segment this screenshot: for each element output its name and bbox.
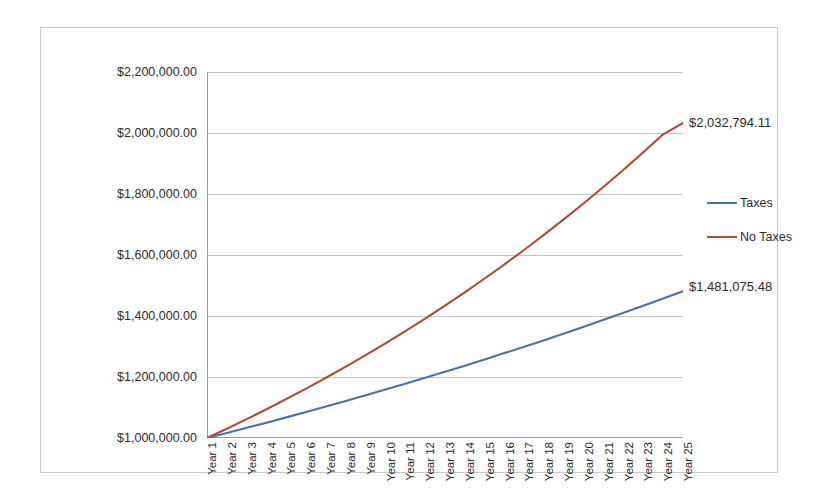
x-tick: Year 13 xyxy=(437,440,453,500)
legend-item-no-taxes[interactable]: No Taxes xyxy=(707,220,814,254)
plot-area xyxy=(207,72,683,438)
y-tick-label: $1,600,000.00 xyxy=(117,249,197,262)
x-tick: Year 25 xyxy=(675,440,691,500)
x-tick: Year 1 xyxy=(199,440,215,500)
x-tick-label: Year 10 xyxy=(386,442,398,481)
x-tick-label: Year 8 xyxy=(346,442,358,475)
x-tick-label: Year 6 xyxy=(306,442,318,475)
x-tick: Year 3 xyxy=(239,440,255,500)
x-tick-label: Year 25 xyxy=(683,442,695,481)
y-tick-label: $1,200,000.00 xyxy=(117,371,197,384)
x-tick: Year 24 xyxy=(655,440,671,500)
x-tick-label: Year 21 xyxy=(604,442,616,481)
y-axis-labels: $2,200,000.00$2,000,000.00$1,800,000.00$… xyxy=(41,28,197,474)
series-line-taxes xyxy=(207,291,683,438)
x-tick: Year 18 xyxy=(536,440,552,500)
x-tick: Year 21 xyxy=(596,440,612,500)
x-tick: Year 8 xyxy=(338,440,354,500)
data-label-taxes: $1,481,075.48 xyxy=(689,280,772,293)
x-tick: Year 19 xyxy=(556,440,572,500)
x-tick: Year 7 xyxy=(318,440,334,500)
x-tick-label: Year 9 xyxy=(366,442,378,475)
x-tick-label: Year 7 xyxy=(326,442,338,475)
x-tick: Year 4 xyxy=(259,440,275,500)
chart-legend[interactable]: TaxesNo Taxes xyxy=(707,186,814,254)
x-tick-label: Year 15 xyxy=(485,442,497,481)
x-tick-label: Year 17 xyxy=(524,442,536,481)
legend-swatch xyxy=(707,236,737,238)
legend-label: No Taxes xyxy=(740,231,792,244)
y-tick-label: $2,000,000.00 xyxy=(117,127,197,140)
x-tick: Year 23 xyxy=(635,440,651,500)
x-tick: Year 6 xyxy=(298,440,314,500)
x-tick: Year 11 xyxy=(397,440,413,500)
x-tick-label: Year 14 xyxy=(465,442,477,481)
x-tick: Year 5 xyxy=(278,440,294,500)
plot-svg xyxy=(207,72,683,438)
chart-screenshot: $2,200,000.00$2,000,000.00$1,800,000.00$… xyxy=(0,0,814,502)
chart-frame: $2,200,000.00$2,000,000.00$1,800,000.00$… xyxy=(40,27,778,473)
x-tick-label: Year 19 xyxy=(564,442,576,481)
legend-item-taxes[interactable]: Taxes xyxy=(707,186,814,220)
x-tick: Year 22 xyxy=(616,440,632,500)
x-tick: Year 15 xyxy=(477,440,493,500)
x-tick-label: Year 22 xyxy=(624,442,636,481)
y-tick-label: $1,000,000.00 xyxy=(117,432,197,445)
x-tick-label: Year 3 xyxy=(247,442,259,475)
legend-swatch xyxy=(707,202,737,204)
x-tick: Year 10 xyxy=(378,440,394,500)
data-label-no-taxes: $2,032,794.11 xyxy=(689,116,771,129)
x-axis-labels: Year 1Year 2Year 3Year 4Year 5Year 6Year… xyxy=(207,440,687,500)
x-tick: Year 2 xyxy=(219,440,235,500)
x-tick-label: Year 4 xyxy=(267,442,279,475)
x-tick: Year 9 xyxy=(358,440,374,500)
legend-label: Taxes xyxy=(740,197,773,210)
x-tick-label: Year 13 xyxy=(445,442,457,481)
x-tick-label: Year 23 xyxy=(643,442,655,481)
x-tick-label: Year 18 xyxy=(544,442,556,481)
x-tick: Year 20 xyxy=(576,440,592,500)
series-line-no-taxes xyxy=(207,123,683,438)
x-tick-label: Year 5 xyxy=(286,442,298,475)
x-tick-label: Year 20 xyxy=(584,442,596,481)
x-tick: Year 14 xyxy=(457,440,473,500)
y-tick-label: $1,800,000.00 xyxy=(117,188,197,201)
x-tick: Year 12 xyxy=(417,440,433,500)
y-tick-label: $1,400,000.00 xyxy=(117,310,197,323)
x-tick: Year 16 xyxy=(497,440,513,500)
x-tick-label: Year 11 xyxy=(405,442,417,480)
x-tick-label: Year 24 xyxy=(663,442,675,481)
x-tick-label: Year 16 xyxy=(505,442,517,481)
x-tick-label: Year 1 xyxy=(207,442,219,475)
x-tick-label: Year 2 xyxy=(227,442,239,475)
y-tick-label: $2,200,000.00 xyxy=(117,66,197,79)
x-tick: Year 17 xyxy=(516,440,532,500)
x-tick-label: Year 12 xyxy=(425,442,437,481)
